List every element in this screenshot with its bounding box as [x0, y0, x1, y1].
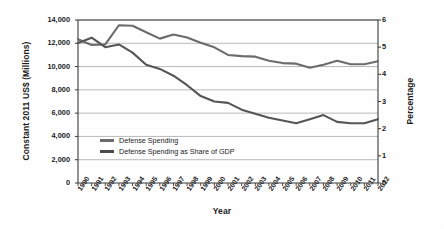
- gridlines: [78, 20, 378, 183]
- plot-area: [0, 0, 444, 229]
- legend-label-defense-spending: Defense Spending: [119, 136, 178, 145]
- legend-item: Defense Spending: [100, 135, 234, 146]
- chart-legend: Defense Spending Defense Spending as Sha…: [100, 135, 234, 157]
- legend-item: Defense Spending as Share of GDP: [100, 146, 234, 157]
- chart-container: Constant 2011 US$ (Millions) Percentage …: [0, 0, 444, 229]
- legend-swatch-defense-spending: [100, 139, 114, 141]
- series-line-1: [78, 38, 378, 124]
- legend-swatch-share-of-gdp: [100, 150, 114, 152]
- legend-label-share-of-gdp: Defense Spending as Share of GDP: [119, 147, 234, 156]
- data-series-group: [78, 25, 378, 123]
